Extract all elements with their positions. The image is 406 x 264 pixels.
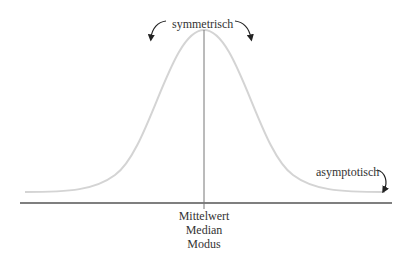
arrow-right-icon [235, 21, 251, 38]
median-label: Median [154, 223, 254, 237]
asymptote-label: asymptotisch [316, 165, 379, 179]
center-labels: Mittelwert Median Modus [154, 209, 254, 251]
symmetry-label: symmetrisch [172, 17, 233, 31]
mode-label: Modus [154, 237, 254, 251]
mean-label: Mittelwert [154, 209, 254, 223]
arrow-left-icon [151, 21, 166, 38]
